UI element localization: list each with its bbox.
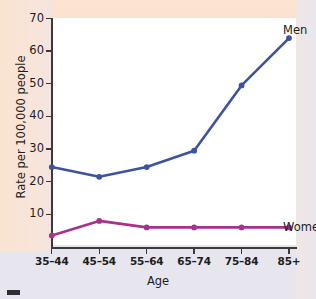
y-axis-title: Rate per 100,000 people [14,37,28,217]
series-women [49,218,292,238]
data-point [96,174,102,180]
data-point [239,83,245,89]
series-men [49,35,292,180]
series-line-women [52,221,289,236]
data-point [144,225,150,231]
data-point [191,148,197,154]
series-plot [0,0,316,299]
chart-figure: 10203040506070 35–4445–5455–6465–7475–84… [0,0,316,299]
data-point [191,225,197,231]
data-point [49,164,55,170]
data-point [144,164,150,170]
series-label-women: Women [283,222,316,234]
x-axis-title: Age [0,274,316,288]
data-point [49,233,55,239]
figure-corner-mark [7,290,20,295]
data-point [96,218,102,224]
series-label-men: Men [283,25,307,37]
data-point [239,225,245,231]
series-line-men [52,38,289,177]
